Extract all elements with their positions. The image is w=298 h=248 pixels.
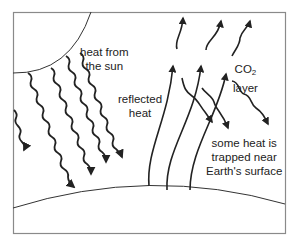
escaping-ray-1 [176, 18, 183, 49]
label-reflected-heat: reflected heat [118, 92, 162, 120]
label-heat-from-sun: heat from the sun [80, 45, 129, 73]
diagram-canvas [0, 0, 298, 248]
trapped-ray-1 [182, 78, 212, 122]
escaping-rays [176, 18, 250, 56]
frame [14, 13, 286, 234]
sun-ray-1 [14, 110, 25, 150]
escaping-ray-3 [232, 21, 250, 56]
greenhouse-diagram: heat from the sun reflected heat CO2 lay… [0, 0, 298, 248]
earth-surface [13, 185, 285, 208]
sun-ray-2 [28, 73, 74, 187]
escaping-ray-2 [206, 21, 221, 50]
sun-ray-3 [51, 68, 91, 174]
sun-rays [14, 53, 122, 187]
label-co2-layer: CO2 layer [233, 62, 258, 95]
co2-formula: CO2 [233, 62, 258, 80]
label-trapped-heat: some heat is trapped near Earth's surfac… [206, 136, 282, 178]
